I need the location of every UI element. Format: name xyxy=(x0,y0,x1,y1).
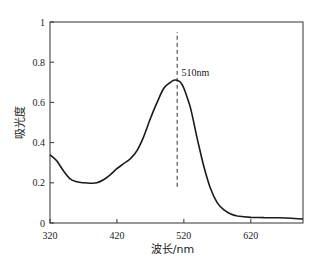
x-tick-label: 620 xyxy=(243,230,258,241)
y-tick-label: 0.8 xyxy=(33,57,46,68)
y-tick-label: 0 xyxy=(40,218,45,229)
x-tick-label: 520 xyxy=(176,230,191,241)
peak-label: 510nm xyxy=(182,67,210,78)
x-tick-label: 320 xyxy=(43,230,58,241)
y-tick-label: 0.6 xyxy=(33,97,46,108)
x-tick-label: 420 xyxy=(109,230,124,241)
absorbance-curve xyxy=(50,80,303,219)
x-axis-title: 波长/nm xyxy=(151,243,194,256)
y-axis-ticks: 00.20.40.60.81 xyxy=(33,17,55,229)
x-axis-ticks: 320420520620 xyxy=(43,219,259,241)
y-tick-label: 0.4 xyxy=(33,137,46,148)
y-tick-label: 0.2 xyxy=(33,177,46,188)
absorbance-chart: 00.20.40.60.81 320420520620 510nm 吸光度 波长… xyxy=(0,0,322,271)
y-tick-label: 1 xyxy=(40,17,45,28)
plot-border xyxy=(50,22,303,223)
peak-annotation: 510nm xyxy=(177,32,209,187)
plot-frame xyxy=(50,22,303,223)
y-axis-title: 吸光度 xyxy=(13,106,27,139)
